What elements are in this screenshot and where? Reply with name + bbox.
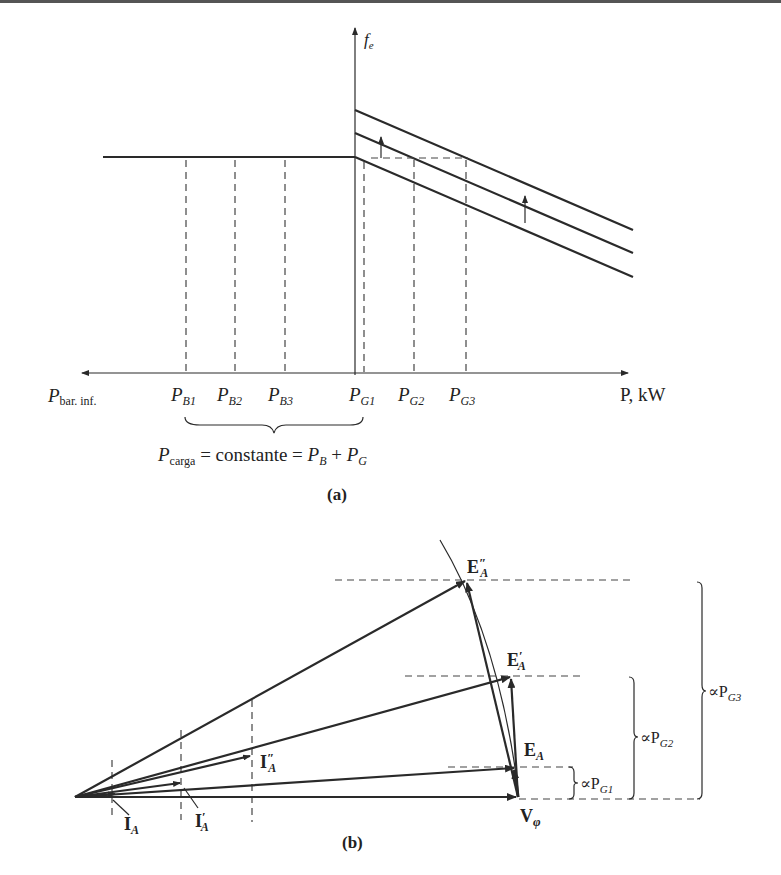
droop-line-2 <box>355 133 633 253</box>
caption-a: (a) <box>327 485 347 504</box>
tick-pg2: PG2 <box>397 384 424 408</box>
tick-pb2: PB2 <box>216 384 242 408</box>
tick-pg3: PG3 <box>448 384 475 408</box>
label-ea: EA <box>524 740 544 763</box>
droop-line-1 <box>355 157 633 277</box>
label-ia2: I″A <box>260 750 276 775</box>
jxs-ia2-phasor <box>467 583 518 797</box>
ia-leader <box>113 800 129 815</box>
tick-pb3: PB3 <box>267 384 293 408</box>
tick-pb1: PB1 <box>170 384 196 408</box>
droop-line-3 <box>355 110 633 230</box>
tick-pg1: PG1 <box>348 384 375 408</box>
figure-b-phasor-diagram: E″A E′A EA Vφ IA I′A I″A ∝PG1 ∝PG2 ∝PG3 … <box>75 540 742 852</box>
figure-a-frequency-power: fe Pbar. inf. PB1 PB2 PB3 PG1 PG2 PG3 P,… <box>47 28 665 504</box>
p-kw-label: P, kW <box>620 384 665 405</box>
label-ea2: E″A <box>467 555 488 580</box>
caption-b: (b) <box>342 833 363 852</box>
label-ea1: E′A <box>507 648 526 673</box>
brace-pg1-label: ∝PG1 <box>580 775 613 795</box>
label-ia1: I′A <box>195 809 209 834</box>
p-bus-label: Pbar. inf. <box>47 385 97 408</box>
label-vphi: Vφ <box>520 806 541 829</box>
label-ia: IA <box>124 814 139 837</box>
figure-canvas: fe Pbar. inf. PB1 PB2 PB3 PG1 PG2 PG3 P,… <box>0 0 781 875</box>
fe-axis-label: fe <box>364 30 374 51</box>
brace-pg2 <box>629 677 638 799</box>
load-brace <box>185 417 363 433</box>
brace-pg1 <box>569 767 578 799</box>
load-equation: Pcarga = constante = PB + PG <box>157 444 367 468</box>
brace-pg2-label: ∝PG2 <box>640 729 674 749</box>
ea1-phasor <box>75 677 510 797</box>
brace-pg3-label: ∝PG3 <box>708 683 742 703</box>
brace-pg3 <box>697 582 706 799</box>
